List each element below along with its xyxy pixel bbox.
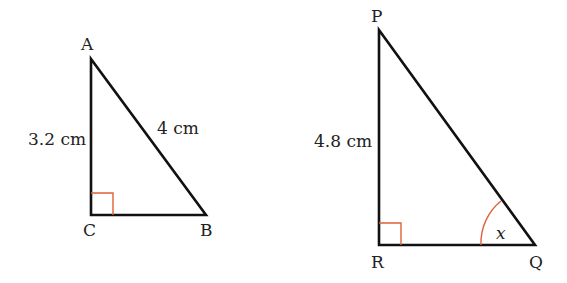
vertex-label-r: R bbox=[371, 252, 385, 272]
vertex-label-c: C bbox=[83, 220, 96, 240]
side-label-ac: 3.2 cm bbox=[28, 129, 86, 149]
similar-triangles-diagram: A C B 3.2 cm 4 cm P R Q 4.8 cm x bbox=[0, 0, 567, 283]
triangle-pqr: P R Q 4.8 cm x bbox=[314, 6, 543, 272]
right-angle-marker-r bbox=[379, 223, 401, 245]
angle-label-x: x bbox=[496, 223, 506, 243]
right-angle-marker-c bbox=[91, 193, 113, 215]
vertex-label-b: B bbox=[200, 220, 213, 240]
triangle-abc: A C B 3.2 cm 4 cm bbox=[28, 34, 213, 240]
side-label-pr: 4.8 cm bbox=[314, 131, 372, 151]
vertex-label-q: Q bbox=[529, 252, 543, 272]
vertex-label-a: A bbox=[80, 34, 94, 54]
vertex-label-p: P bbox=[371, 6, 382, 26]
side-label-ab: 4 cm bbox=[157, 118, 199, 138]
